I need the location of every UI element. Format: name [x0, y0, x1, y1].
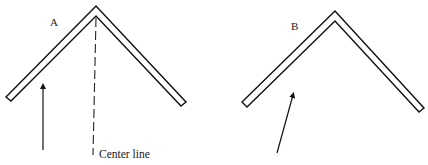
diagram-canvas: A Center line B [0, 0, 428, 165]
figure-b-roof-shape [242, 11, 424, 112]
figure-a-label: A [50, 16, 58, 28]
figure-b-label: B [291, 20, 298, 32]
center-line-label: Center line [99, 148, 150, 160]
center-line [93, 18, 96, 155]
figure-b: B [242, 11, 424, 153]
figure-b-arrow [277, 95, 293, 153]
figure-a: A Center line [6, 6, 186, 160]
